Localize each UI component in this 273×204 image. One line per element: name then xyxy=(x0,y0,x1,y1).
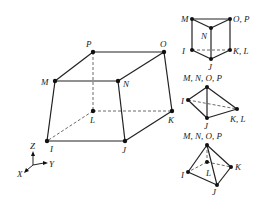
node-O xyxy=(162,50,166,54)
node xyxy=(235,107,239,111)
x-axis-label: X xyxy=(16,169,23,179)
edge xyxy=(192,50,211,59)
hexahedral-element: POMNLKIJ xyxy=(40,39,175,155)
edge xyxy=(164,52,172,111)
node xyxy=(228,48,232,52)
node-label: N xyxy=(122,79,130,89)
prism-element: MO, PNIK, LJ xyxy=(180,14,250,72)
edge xyxy=(118,52,164,81)
z-axis-label: Z xyxy=(30,141,36,151)
node-label: M, N, O, P xyxy=(182,73,222,83)
node-label: N xyxy=(200,31,208,41)
node-label: K xyxy=(167,115,175,125)
node xyxy=(229,165,233,169)
node-label: I xyxy=(49,144,54,154)
node-label: K xyxy=(234,162,242,172)
edge xyxy=(217,167,231,185)
edge xyxy=(125,111,172,141)
node xyxy=(186,170,190,174)
node xyxy=(190,17,194,21)
node-L xyxy=(91,109,95,113)
node-label: J xyxy=(204,121,209,131)
node-label: L xyxy=(89,115,95,125)
node xyxy=(205,160,209,164)
edge xyxy=(211,50,230,59)
node-label: J xyxy=(208,62,213,72)
node xyxy=(205,85,209,89)
node xyxy=(209,57,213,61)
edge xyxy=(207,145,217,185)
node xyxy=(205,143,209,147)
edge xyxy=(188,172,217,185)
node-label: I xyxy=(180,96,185,106)
edge xyxy=(211,19,230,28)
node-label: J xyxy=(122,145,127,155)
hexahedron-degeneration-diagram: POMNLKIJ Z Y X MO, PNIK, LJM, N, O, PIJK… xyxy=(0,0,273,204)
node-I xyxy=(45,139,49,143)
node-K xyxy=(170,109,174,113)
degenerate-elements: MO, PNIK, LJM, N, O, PIJK, LM, N, O, PLI… xyxy=(180,14,250,197)
edge xyxy=(188,145,207,172)
pyramid-element: M, N, O, PLIKJ xyxy=(180,131,242,197)
edge xyxy=(207,87,237,109)
node-label: P xyxy=(85,39,92,49)
edge xyxy=(207,145,231,167)
node-P xyxy=(91,50,95,54)
node xyxy=(186,98,190,102)
node-label: I xyxy=(180,170,185,180)
node-label: M, N, O, P xyxy=(182,131,222,141)
node xyxy=(209,26,213,30)
node xyxy=(205,116,209,120)
node-label: O xyxy=(160,39,167,49)
edge xyxy=(188,87,207,100)
node-label: M xyxy=(40,77,49,87)
node-label: O, P xyxy=(233,14,250,24)
node-M xyxy=(53,79,57,83)
y-axis-label: Y xyxy=(49,159,55,169)
tetrahedron-element: M, N, O, PIJK, L xyxy=(180,73,246,131)
node-J xyxy=(123,139,127,143)
node-label: K, L xyxy=(229,114,246,124)
edge xyxy=(192,19,211,28)
node-label: K, L xyxy=(232,46,249,56)
edge xyxy=(47,81,55,141)
node-label: J xyxy=(212,187,217,197)
edge xyxy=(55,52,93,81)
node-label: M xyxy=(180,14,189,24)
node-label: I xyxy=(181,46,186,56)
node xyxy=(228,17,232,21)
node xyxy=(190,48,194,52)
hidden-edge xyxy=(47,111,93,141)
node-label: L xyxy=(205,168,211,178)
node-N xyxy=(116,79,120,83)
